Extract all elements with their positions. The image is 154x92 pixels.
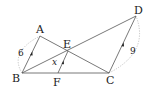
parallel-arrow-ef-icon [62,61,64,65]
segment-ac [40,36,109,73]
label-length-ef: x [52,57,57,67]
label-point-b: B [12,72,20,85]
label-point-f: F [53,76,61,89]
parallel-arrow-cd-icon [121,43,124,47]
label-point-a: A [35,23,45,36]
parallel-arrow-ab-icon [30,52,33,56]
label-point-e: E [63,38,71,51]
geometry-diagram: A B C D E F 6 9 x [0,0,154,92]
label-length-ab: 6 [18,48,24,58]
label-length-cd: 9 [130,46,136,56]
label-point-d: D [134,4,143,17]
label-point-c: C [106,74,114,87]
arc-cd [109,16,140,73]
